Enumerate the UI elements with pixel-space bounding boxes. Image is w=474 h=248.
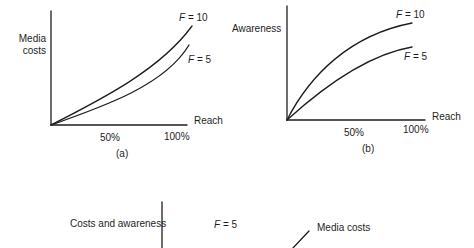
panel-a-series-label-f10: F = 10 [179,12,208,24]
panel-c-f-label: F = 5 [214,219,237,231]
f-value: = 5 [220,219,237,230]
panel-a-y-label-line2: costs [14,45,46,57]
panel-a-tick-100: 100% [164,131,190,143]
panel-a-y-label: Media costs [14,33,46,57]
panel-b-series-label-f10: F = 10 [396,9,425,21]
panel-b-y-label: Awareness [232,23,281,35]
panel-a-x-label: Reach [194,115,223,127]
figure: Media costs F = 10 F = 5 Reach 50% 100% … [0,0,474,248]
f-value: = 5 [194,54,211,65]
panel-a-series-label-f5: F = 5 [188,54,211,66]
panel-b-tick-50: 50% [344,127,364,139]
panel-b-curve-f5 [287,47,412,120]
panel-b-tick-100: 100% [403,124,429,136]
panel-b-caption: (b) [362,143,374,155]
panel-b-series-label-f5: F = 5 [404,51,427,63]
panel-b-x-label: Reach [432,111,461,123]
panel-c-media-costs-curve [293,231,309,248]
panel-a-curve-f10 [51,26,192,125]
f-value: = 10 [185,12,208,23]
panel-a-y-label-line1: Media [14,33,46,45]
f-value: = 5 [410,51,427,62]
panel-a-curve-f5 [51,45,189,125]
f-value: = 10 [402,9,425,20]
panel-a-tick-50: 50% [100,132,120,144]
panel-a-caption: (a) [116,148,128,160]
panel-c-media-costs-label: Media costs [317,222,370,234]
panel-c-y-label: Costs and awareness [70,218,166,230]
